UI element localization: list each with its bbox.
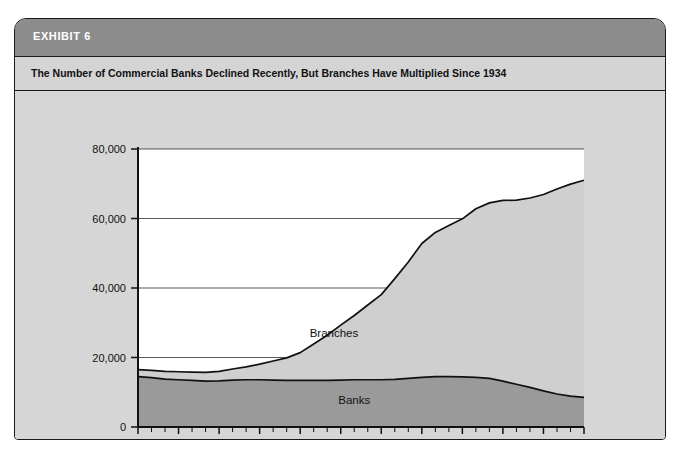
y-axis-ticks (131, 149, 138, 427)
exhibit-label: EXHIBIT 6 (33, 30, 91, 42)
y-axis-tick-labels: 020,00040,00060,00080,000 (92, 143, 126, 433)
x-tick-label: 1946 (207, 438, 231, 439)
series-label-branches: Branches (310, 327, 359, 339)
series-label-banks: Banks (338, 394, 370, 406)
x-tick-label: 1976 (410, 438, 434, 439)
x-tick-label: 1952 (247, 438, 271, 439)
x-axis-tick-labels: 1934194019461952195819641970197619821988… (126, 438, 596, 439)
chart-subtitle: The Number of Commercial Banks Declined … (31, 67, 506, 79)
y-tick-label: 0 (120, 421, 126, 433)
x-tick-label: 1982 (450, 438, 474, 439)
y-tick-label: 20,000 (92, 352, 126, 364)
exhibit-header-bar: EXHIBIT 6 (15, 19, 665, 57)
chart-body: 1934194019461952195819641970197619821988… (15, 91, 665, 439)
subtitle-band: The Number of Commercial Banks Declined … (15, 57, 665, 91)
y-tick-label: 60,000 (92, 213, 126, 225)
x-tick-label: 1988 (491, 438, 515, 439)
area-chart: 1934194019461952195819641970197619821988… (15, 91, 666, 439)
x-tick-label: 1970 (369, 438, 393, 439)
x-tick-label: 1940 (166, 438, 190, 439)
x-tick-label: 1934 (126, 438, 150, 439)
y-tick-label: 80,000 (92, 143, 126, 155)
x-tick-label: 2000 (572, 438, 596, 439)
x-tick-label: 1958 (288, 438, 312, 439)
y-tick-label: 40,000 (92, 282, 126, 294)
x-tick-label: 1994 (531, 438, 555, 439)
x-tick-label: 1964 (328, 438, 352, 439)
exhibit-card: EXHIBIT 6 The Number of Commercial Banks… (14, 18, 666, 440)
x-axis-ticks (138, 427, 584, 434)
